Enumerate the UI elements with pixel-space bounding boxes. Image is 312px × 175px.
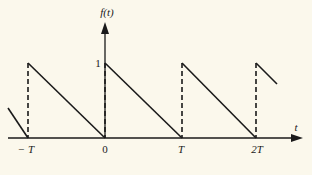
peak-value-label: 1 xyxy=(95,57,101,69)
sawtooth-figure: f(t) t 1 − T 0 T 2T xyxy=(0,0,312,175)
tick-label-minus-T: − T xyxy=(18,143,35,155)
y-axis-label: f(t) xyxy=(100,6,114,19)
tick-label-0: 0 xyxy=(102,143,108,155)
x-axis-label: t xyxy=(294,121,298,133)
ramp-partial-left xyxy=(8,108,28,138)
jump-markers xyxy=(28,63,256,138)
tick-label-T: T xyxy=(178,143,185,155)
sawtooth-waveform xyxy=(8,63,277,138)
sawtooth-plot: f(t) t 1 − T 0 T 2T xyxy=(0,0,312,175)
ramp-0-to-T xyxy=(105,63,182,138)
ramp-minus-T-to-0 xyxy=(28,63,105,138)
x-axis-arrow-icon xyxy=(291,134,303,142)
ramp-T-to-2T xyxy=(182,63,256,138)
y-axis-arrow-icon xyxy=(101,22,109,34)
tick-label-2T: 2T xyxy=(251,143,264,155)
ramp-partial-right xyxy=(256,63,277,84)
